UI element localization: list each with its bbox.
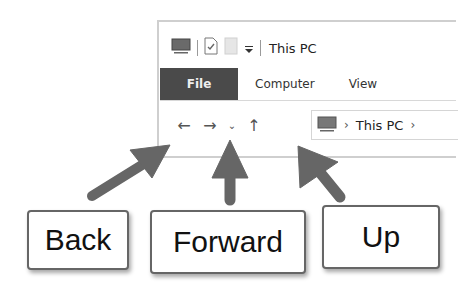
forward-arrow-icon (212, 140, 248, 200)
back-arrow-icon (92, 145, 170, 196)
callout-back: Back (27, 210, 129, 270)
up-arrow-icon (298, 146, 340, 197)
callout-forward: Forward (150, 210, 306, 274)
callout-up: Up (322, 205, 440, 269)
